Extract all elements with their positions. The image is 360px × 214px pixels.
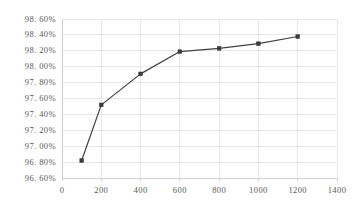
data-point-marker [99, 103, 103, 107]
y-axis-tick-label: 97. 60% [25, 94, 56, 103]
x-axis-tick-label: 800 [199, 186, 239, 195]
data-point-marker [139, 72, 143, 76]
y-axis-tick-label: 97. 80% [25, 78, 56, 87]
data-point-marker [80, 159, 84, 163]
x-axis-tick-label: 1000 [238, 186, 278, 195]
y-axis-tick-label: 97. 00% [25, 142, 56, 151]
data-point-marker [217, 47, 221, 51]
y-axis-tick-label: 97. 20% [25, 126, 56, 135]
y-axis-tick-label: 96. 60% [25, 174, 56, 183]
x-axis-tick-label: 600 [160, 186, 200, 195]
data-point-marker [296, 35, 300, 39]
y-axis-tick-label: 98. 20% [25, 46, 56, 55]
y-axis-tick-label: 97. 40% [25, 110, 56, 119]
x-axis-tick-label: 1200 [278, 186, 318, 195]
y-axis-tick-label: 96. 80% [25, 158, 56, 167]
x-axis-tick-label: 200 [81, 186, 121, 195]
data-point-marker [178, 50, 182, 54]
y-axis-tick-label: 98. 40% [25, 30, 56, 39]
x-axis-tick-label: 1400 [317, 186, 357, 195]
line-chart: 96. 60%96. 80%97. 00%97. 20%97. 40%97. 6… [0, 0, 360, 214]
x-axis-tick-label: 0 [42, 186, 82, 195]
data-point-marker [257, 42, 261, 46]
y-axis-tick-label: 98. 00% [25, 62, 56, 71]
x-axis-tick-label: 400 [121, 186, 161, 195]
y-axis-tick-label: 98. 60% [25, 15, 56, 24]
